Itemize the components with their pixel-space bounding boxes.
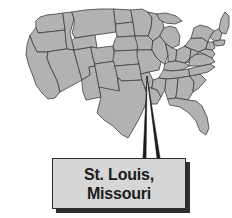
callout-label-box: St. Louis, Missouri — [52, 158, 186, 209]
state-florida — [168, 98, 209, 135]
callout-label-line-2: Missouri — [87, 184, 151, 203]
state-montana — [72, 9, 116, 38]
state-nebraska — [113, 36, 138, 51]
state-georgia — [176, 76, 194, 100]
map-figure: St. Louis, Missouri — [0, 0, 232, 218]
callout-label-line-1: St. Louis, — [84, 165, 154, 184]
state-maine — [219, 12, 229, 34]
state-south-dakota — [116, 22, 135, 37]
map-states-group — [26, 9, 229, 138]
state-massachusetts — [213, 40, 225, 46]
state-north-dakota — [114, 9, 133, 24]
state-washington — [36, 13, 65, 33]
state-kansas — [113, 50, 139, 66]
